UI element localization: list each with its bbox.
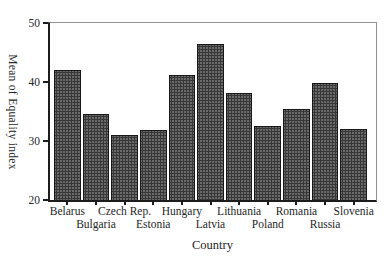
plot-area: 50403020 BelarusBulgariaCzech Rep.Estoni… [48,22,377,202]
x-category-label: Romania [276,205,318,218]
bar-cell: Estonia [140,23,167,200]
x-category-label: Lithuania [217,205,261,218]
bar-slovenia [340,129,367,200]
y-tick-mark [43,199,48,201]
bar-cell: Slovenia [340,23,367,200]
y-tick-mark [43,81,48,83]
bar-cell: Romania [283,23,310,200]
bar-cell: Bulgaria [83,23,110,200]
bar-cell: Czech Rep. [111,23,138,200]
bar-estonia [140,130,167,200]
bar-chart-figure: Mean of Equality index 50403020 BelarusB… [0,0,392,264]
y-axis-title: Mean of Equality index [7,54,19,170]
bar-cell: Hungary [169,23,196,200]
x-tick-mark [95,202,97,205]
x-category-label: Bulgaria [76,218,116,231]
y-tick-label: 50 [8,16,40,30]
bar-cell: Belarus [54,23,81,200]
bar-belarus [54,70,81,200]
x-category-label: Estonia [136,218,171,231]
x-category-label: Poland [252,218,284,231]
bar-romania [283,109,310,200]
y-tick-mark [43,22,48,24]
x-category-label: Belarus [50,205,85,218]
x-tick-mark [267,202,269,205]
x-tick-mark [210,202,212,205]
bar-cell: Poland [254,23,281,200]
x-category-label: Czech Rep. [98,205,151,218]
bar-cell: Lithuania [226,23,253,200]
y-tick-mark [43,140,48,142]
bar-latvia [197,44,224,200]
bar-cell: Latvia [197,23,224,200]
bars: BelarusBulgariaCzech Rep.EstoniaHungaryL… [54,23,367,200]
bar-cell: Russia [312,23,339,200]
bar-hungary [169,75,196,200]
x-category-label: Latvia [196,218,225,231]
bar-poland [254,126,281,200]
x-tick-mark [152,202,154,205]
y-tick-label: 20 [8,193,40,207]
x-category-label: Russia [310,218,341,231]
y-tick-label: 30 [8,134,40,148]
bar-lithuania [226,93,253,200]
y-tick-label: 40 [8,75,40,89]
x-category-label: Slovenia [334,205,374,218]
bar-russia [312,83,339,200]
bar-bulgaria [83,114,110,200]
x-axis-title: Country [48,238,377,253]
x-tick-mark [324,202,326,205]
bar-czech-rep [111,135,138,200]
x-category-label: Hungary [162,205,202,218]
